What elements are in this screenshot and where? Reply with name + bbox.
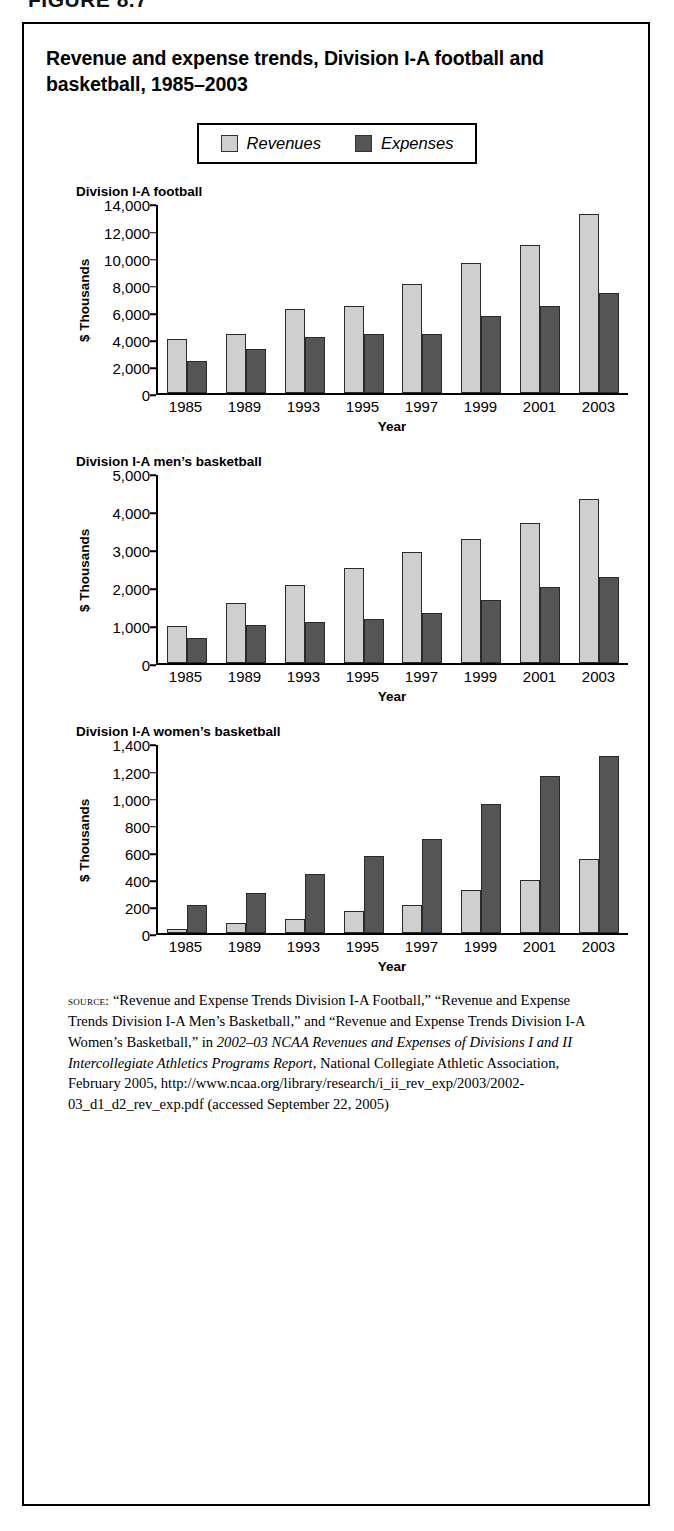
x-tick-label: 1993 bbox=[274, 398, 333, 415]
bar-expenses bbox=[599, 577, 619, 663]
bar-revenues bbox=[285, 919, 305, 933]
legend-label-expenses: Expenses bbox=[381, 134, 453, 153]
bar-revenues bbox=[285, 585, 305, 663]
x-tick-label: 2003 bbox=[569, 398, 628, 415]
bar-revenues bbox=[344, 306, 364, 394]
legend-item-expenses: Expenses bbox=[355, 134, 453, 153]
chart-panel-football: Division I-A football $ Thousands 02,000… bbox=[46, 184, 628, 434]
bar-expenses bbox=[246, 349, 266, 394]
bar-revenues bbox=[579, 214, 599, 393]
y-tick-label: 14,000 bbox=[104, 197, 150, 214]
y-tick-label: 400 bbox=[125, 873, 150, 890]
y-axis-ticks-mens-basketball: 01,0002,0003,0004,0005,000 bbox=[94, 475, 156, 665]
y-tick-label: 1,000 bbox=[112, 791, 150, 808]
revenues-swatch-icon bbox=[221, 135, 238, 152]
bar-revenues bbox=[461, 890, 481, 933]
x-tick-label: 1999 bbox=[451, 668, 510, 685]
bar-group bbox=[569, 745, 628, 933]
figure-title: Revenue and expense trends, Division I-A… bbox=[46, 46, 628, 97]
bar-expenses bbox=[422, 334, 442, 394]
y-tick-label: 600 bbox=[125, 846, 150, 863]
bar-revenues bbox=[402, 284, 422, 393]
bar-expenses bbox=[246, 893, 266, 934]
bar-group bbox=[334, 475, 393, 663]
y-axis-label-womens-basketball: $ Thousands bbox=[74, 745, 94, 935]
x-tick-label: 1997 bbox=[392, 398, 451, 415]
y-tick-label: 1,200 bbox=[112, 764, 150, 781]
figure-caption: FIGURE 8.7 bbox=[28, 0, 147, 10]
x-tick-label: 2001 bbox=[510, 668, 569, 685]
bar-group bbox=[158, 475, 217, 663]
y-tick-label: 3,000 bbox=[112, 543, 150, 560]
bar-groups-womens-basketball bbox=[158, 745, 628, 933]
y-axis-ticks-womens-basketball: 02004006008001,0001,2001,400 bbox=[94, 745, 156, 935]
y-tick-label: 12,000 bbox=[104, 224, 150, 241]
x-axis-label-football: Year bbox=[156, 419, 628, 434]
y-tick-label: 8,000 bbox=[112, 278, 150, 295]
y-tick-label: 6,000 bbox=[112, 306, 150, 323]
bar-group bbox=[276, 745, 335, 933]
bar-group bbox=[511, 475, 570, 663]
legend-container: Revenues Expenses bbox=[46, 123, 628, 164]
bar-revenues bbox=[461, 263, 481, 393]
bar-expenses bbox=[364, 619, 384, 664]
x-tick-label: 1995 bbox=[333, 398, 392, 415]
chart-panel-womens-basketball: Division I-A women’s basketball $ Thousa… bbox=[46, 724, 628, 974]
bar-expenses bbox=[481, 600, 501, 664]
y-tick-label: 5,000 bbox=[112, 467, 150, 484]
x-tick-label: 2003 bbox=[569, 668, 628, 685]
y-tick-label: 1,000 bbox=[112, 619, 150, 636]
chart-panel-mens-basketball: Division I-A men’s basketball $ Thousand… bbox=[46, 454, 628, 704]
bar-group bbox=[276, 205, 335, 393]
bar-group bbox=[158, 745, 217, 933]
bar-expenses bbox=[481, 316, 501, 393]
chart-title-mens-basketball: Division I-A men’s basketball bbox=[76, 454, 628, 469]
x-tick-label: 1989 bbox=[215, 938, 274, 955]
bar-expenses bbox=[187, 361, 207, 394]
bar-revenues bbox=[402, 905, 422, 934]
x-axis-ticks-football: 19851989199319951997199920012003 bbox=[156, 398, 628, 415]
x-tick-label: 1993 bbox=[274, 938, 333, 955]
y-tick-label: 4,000 bbox=[112, 505, 150, 522]
x-tick-label: 1997 bbox=[392, 668, 451, 685]
bar-expenses bbox=[481, 804, 501, 934]
bar-revenues bbox=[520, 245, 540, 394]
legend: Revenues Expenses bbox=[197, 123, 478, 164]
source-label: source: bbox=[68, 993, 109, 1008]
x-tick-label: 1985 bbox=[156, 668, 215, 685]
y-tick-label: 2,000 bbox=[112, 581, 150, 598]
bar-revenues bbox=[344, 568, 364, 664]
bar-expenses bbox=[599, 293, 619, 393]
y-axis-label-football: $ Thousands bbox=[74, 205, 94, 395]
bar-expenses bbox=[540, 776, 560, 933]
legend-item-revenues: Revenues bbox=[221, 134, 321, 153]
y-tick-label: 2,000 bbox=[112, 360, 150, 377]
bar-revenues bbox=[167, 339, 187, 393]
y-tick-label: 4,000 bbox=[112, 333, 150, 350]
x-tick-label: 1999 bbox=[451, 938, 510, 955]
bar-group bbox=[393, 745, 452, 933]
bar-revenues bbox=[461, 539, 481, 664]
x-tick-label: 1997 bbox=[392, 938, 451, 955]
bar-expenses bbox=[364, 334, 384, 394]
y-axis-ticks-football: 02,0004,0006,0008,00010,00012,00014,000 bbox=[94, 205, 156, 395]
bar-revenues bbox=[167, 626, 187, 664]
bar-groups-mens-basketball bbox=[158, 475, 628, 663]
bar-expenses bbox=[422, 839, 442, 933]
bar-expenses bbox=[599, 756, 619, 933]
chart-title-womens-basketball: Division I-A women’s basketball bbox=[76, 724, 628, 739]
y-axis-label-mens-basketball: $ Thousands bbox=[74, 475, 94, 665]
chart-title-football: Division I-A football bbox=[76, 184, 628, 199]
x-tick-label: 1985 bbox=[156, 938, 215, 955]
bar-expenses bbox=[364, 856, 384, 933]
bar-group bbox=[511, 205, 570, 393]
bar-expenses bbox=[187, 638, 207, 663]
bar-revenues bbox=[226, 923, 246, 933]
bar-group bbox=[393, 475, 452, 663]
x-tick-label: 1999 bbox=[451, 398, 510, 415]
bar-expenses bbox=[422, 613, 442, 663]
x-axis-label-mens-basketball: Year bbox=[156, 689, 628, 704]
bar-group bbox=[452, 745, 511, 933]
bar-expenses bbox=[246, 625, 266, 664]
x-tick-label: 1989 bbox=[215, 668, 274, 685]
